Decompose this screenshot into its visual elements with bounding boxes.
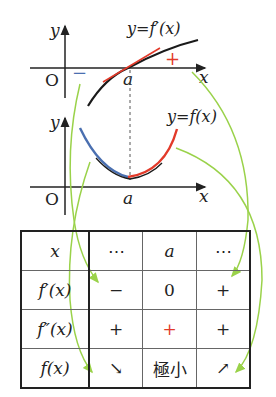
lower-y-label: y xyxy=(49,112,60,132)
upper-a-label: a xyxy=(123,69,133,89)
derivative-curve xyxy=(88,40,198,106)
increasing-arrow-cell: ↗ xyxy=(197,349,251,389)
sign-table: x ⋯ a ⋯ f′(x) − 0 + f″(x) + + + f(x) ↘ 極… xyxy=(20,230,251,389)
table-cell: + xyxy=(89,310,143,349)
table-cell: + xyxy=(197,271,251,310)
table-cell: − xyxy=(89,271,143,310)
table-cell: ⋯ xyxy=(197,231,251,271)
upper-minus-sign: − xyxy=(72,62,87,83)
table-row-x: x ⋯ a ⋯ xyxy=(21,231,250,271)
upper-y-label: y xyxy=(49,20,60,40)
table-cell: 0 xyxy=(143,271,197,310)
row-header: f″(x) xyxy=(21,310,89,349)
lower-a-label: a xyxy=(123,188,133,208)
lower-curve-label: y=f(x) xyxy=(166,107,217,126)
table-row-fdoubleprime: f″(x) + + + xyxy=(21,310,250,349)
lower-origin-label: O xyxy=(45,189,59,209)
table-cell: ⋯ xyxy=(89,231,143,271)
row-header: f(x) xyxy=(21,349,89,389)
row-header: f′(x) xyxy=(21,271,89,310)
table-cell: a xyxy=(143,231,197,271)
table-row-fx: f(x) ↘ 極小 ↗ xyxy=(21,349,250,389)
upper-curve-label: y=f′(x) xyxy=(126,19,181,38)
lower-graph: y x O a y=f(x) xyxy=(30,107,217,215)
upper-graph: y x O a y=f′(x) − + xyxy=(30,19,209,180)
upper-origin-label: O xyxy=(45,70,59,90)
table-cell: + xyxy=(197,310,251,349)
decreasing-arrow-cell: ↘ xyxy=(89,349,143,389)
table-row-fprime: f′(x) − 0 + xyxy=(21,271,250,310)
row-header: x xyxy=(21,231,89,271)
table-cell-highlight: + xyxy=(143,310,197,349)
upper-plus-sign: + xyxy=(165,48,180,69)
increasing-segment xyxy=(128,129,177,177)
lower-x-label: x xyxy=(199,186,209,206)
local-minimum-cell: 極小 xyxy=(143,349,197,389)
